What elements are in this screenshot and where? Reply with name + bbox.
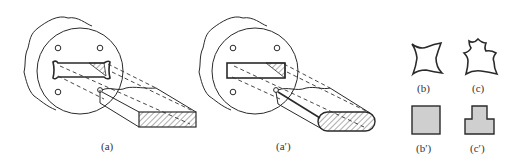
stepped-cross-section <box>465 106 494 134</box>
slot-hatch <box>89 63 106 76</box>
projection-line <box>58 76 104 99</box>
projection-line <box>112 72 193 111</box>
bolt-hole <box>55 89 61 95</box>
bolt-hole <box>55 45 61 51</box>
projection-line <box>284 64 330 88</box>
star-stepped-orifice <box>464 39 497 74</box>
bar-cross-section <box>318 112 375 131</box>
bar-edge <box>278 92 320 118</box>
panel-b-prime: (b′) <box>412 106 440 155</box>
extrusion-die-diagram: (a) (a′) (b) (c) (b′) <box>0 0 513 165</box>
bolt-hole <box>230 45 236 51</box>
bar-origin-hole <box>274 88 279 93</box>
panel-c: (c) <box>464 39 497 95</box>
label-b: (b) <box>417 82 430 95</box>
projection-line <box>60 66 190 124</box>
projection-line <box>232 77 280 99</box>
label-c: (c) <box>472 82 485 95</box>
panel-a-prime: (a′) <box>199 17 375 153</box>
square-cross-section <box>412 106 440 134</box>
projection-line <box>108 64 156 88</box>
bar-cross-section <box>139 112 196 127</box>
label-b-prime: (b′) <box>416 142 432 155</box>
bar-edge <box>102 92 139 112</box>
bolt-hole <box>97 45 103 51</box>
panel-a: (a) <box>24 17 196 153</box>
die-face-circle <box>37 28 123 114</box>
concave-square-orifice <box>412 43 442 74</box>
label-a-prime: (a′) <box>276 140 291 153</box>
panel-b: (b) <box>412 43 442 95</box>
label-c-prime: (c′) <box>470 142 485 155</box>
bolt-hole <box>274 45 280 51</box>
bar-edge <box>276 92 322 129</box>
bolt-hole <box>230 89 236 95</box>
panel-c-prime: (c′) <box>465 106 494 155</box>
label-a: (a) <box>101 140 114 153</box>
slot-hatch <box>266 63 285 78</box>
